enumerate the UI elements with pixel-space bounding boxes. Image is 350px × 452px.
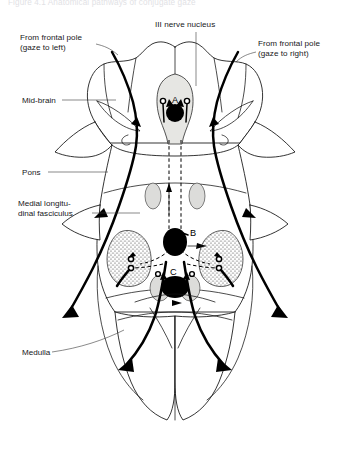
label-from-frontal-pole-left-line2: (gaze to left) — [20, 43, 66, 52]
left-frontal-tract-arrow-lower — [62, 305, 79, 318]
left-third-neuron-soma — [160, 98, 165, 103]
brainstem-diagram: A B C — [0, 0, 350, 452]
label-from-frontal-pole-right-line1: From frontal pole — [258, 39, 320, 48]
label-mlf-line1: Medial longitu- — [18, 199, 71, 208]
label-midbrain: Mid-brain — [22, 96, 56, 105]
left-pontine-nucleus-oval — [145, 183, 161, 209]
right-frontal-tract-arrow-lower — [271, 305, 288, 318]
leader-medulla — [52, 330, 124, 352]
third-nerve-nucleus-blob — [166, 104, 184, 122]
figure-root: Figure 4.1 Anatomical pathways of conjug… — [0, 0, 350, 452]
lesion-label-b: B — [190, 228, 196, 238]
label-from-frontal-pole-right-line2: (gaze to right) — [258, 49, 309, 58]
leader-from-frontal-right — [236, 52, 256, 62]
leader-from-frontal-left — [96, 44, 118, 55]
lesion-label-c: C — [170, 267, 177, 277]
right-pontine-nucleus-oval — [189, 183, 205, 209]
right-third-neuron-axon — [186, 104, 187, 122]
label-mlf-line2: dinal fasciculus — [18, 209, 73, 218]
label-medulla: Medulla — [22, 348, 51, 357]
pprf-blob — [163, 228, 187, 256]
lesion-label-a: A — [172, 95, 179, 105]
label-from-frontal-pole-left-line1: From frontal pole — [20, 33, 82, 42]
left-lower-neuron-soma — [156, 272, 161, 277]
right-third-neuron-soma — [184, 98, 189, 103]
label-pons: Pons — [22, 168, 40, 177]
right-lower-neuron-soma — [190, 272, 195, 277]
left-third-neuron-axon — [163, 104, 164, 122]
right-pons-flare — [250, 205, 288, 240]
label-third-nerve-nucleus: III nerve nucleus — [155, 20, 215, 29]
